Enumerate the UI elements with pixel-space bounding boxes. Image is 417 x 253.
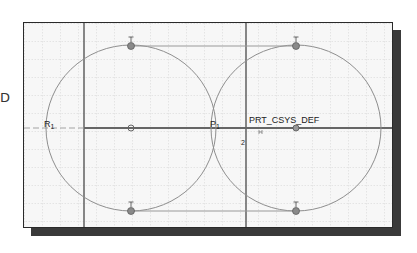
sketch-canvas[interactable] [23,22,393,228]
grid [24,23,392,227]
point-label: P1 [210,120,220,130]
point-subscript: 1 [216,123,220,130]
csys-label[interactable]: PRT_CSYS_DEF [249,116,319,125]
radius-subscript: 1 [51,123,55,130]
edge-letter: D [0,90,10,105]
sketch-svg [24,23,392,227]
radius-label-left: R1 [44,120,54,130]
right-circle-center[interactable] [293,125,299,131]
axis-mark: 2 [241,139,245,146]
